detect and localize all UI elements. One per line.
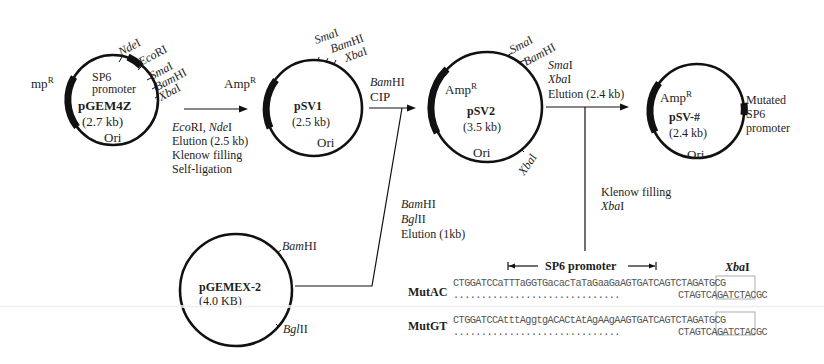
site-bglii: BglII	[283, 322, 308, 336]
ori-label: Ori	[473, 145, 491, 160]
seq-top-mutgt: CTGGATCCAtttAggtgACACtAtAgAAgAAGTGATCAGT…	[453, 315, 726, 326]
marker-label: AmpR	[224, 75, 256, 91]
promoter-label-line2: promoter	[92, 82, 136, 96]
plasmid-size: (2.7 kb)	[82, 114, 123, 129]
oligo-step-line2: XbaI	[600, 199, 624, 213]
plasmid-name: pSV1	[294, 99, 322, 113]
site-bamhi: BamHI	[282, 239, 317, 253]
step3-line1: SmaI	[548, 58, 573, 72]
ori-label: Ori	[687, 147, 705, 162]
feature-line2: SP6	[746, 107, 765, 121]
ampr-gene-bar	[650, 83, 659, 132]
step2-line1: BamHI	[370, 75, 405, 89]
plasmid-pgem4z: mpR SP6 promoter pGEM4Z (2.7 kb) Ori Nde…	[31, 35, 189, 145]
plasmid-name: pSV-#	[669, 110, 700, 124]
step1-line1: EcoRI, NdeI	[171, 120, 232, 134]
marker-label: mpR	[31, 75, 54, 91]
step2-line2: CIP	[370, 89, 390, 104]
step3-line2: XbaI	[547, 72, 571, 86]
scan-artifact-line	[0, 305, 824, 308]
oligo-step-line1: Klenow filling	[601, 185, 671, 199]
step1-arrow: EcoRI, NdeI Elution (2.5 kb) Klenow fill…	[171, 106, 248, 177]
seq-dots-mutac: ..............................	[453, 290, 620, 301]
plasmid-psv-mut: AmpR pSV-# (2.4 kb) Ori Mutated SP6 prom…	[650, 64, 790, 162]
marker-label: AmpR	[660, 89, 692, 105]
seq-top-mutac: CTGGATCCaTTTaGGTGacacTaTaGaaGaAGTGATCAGT…	[453, 278, 726, 289]
insert-step-line2: BglII	[401, 212, 426, 226]
seq-bottom-mutgt: CTAGTCAGATCTACGC	[678, 327, 767, 338]
plasmid-size: (2.4 kb)	[669, 126, 707, 140]
cloning-diagram: mpR SP6 promoter pGEM4Z (2.7 kb) Ori Nde…	[0, 0, 824, 364]
feature-line1: Mutated	[746, 93, 786, 107]
plasmid-name: pGEM4Z	[78, 98, 132, 113]
plasmid-pgemex2: pGEMEX-2 (4.0 KB) BamHI BglII	[180, 234, 317, 346]
plasmid-psv2: AmpR pSV2 (3.5 kb) Ori SmaI BamHI XbaI	[431, 33, 558, 179]
site-xbai: XbaI	[514, 151, 539, 179]
row-name-mutgt: MutGT	[408, 319, 447, 333]
ori-label: Ori	[317, 135, 335, 150]
step3-line3: Elution (2.4 kb)	[548, 87, 624, 101]
ampr-gene-bar	[431, 69, 447, 133]
step1-line4: Self-ligation	[172, 162, 232, 176]
plasmid-size: (2.5 kb)	[292, 115, 330, 129]
insert-step-line1: BamHI	[401, 197, 436, 211]
seq-dots-mutgt: ..............................	[453, 327, 620, 338]
insert-step-line3: Elution (1kb)	[401, 227, 465, 241]
ampr-gene-bar	[68, 77, 77, 127]
marker-label: AmpR	[445, 81, 477, 97]
insert-step-label: BamHI BglII Elution (1kb)	[401, 197, 465, 241]
plasmid-name: pSV2	[467, 104, 495, 118]
ori-label: Ori	[104, 130, 122, 145]
insert-connector-line	[295, 108, 402, 286]
ampr-gene-bar	[266, 80, 276, 128]
xbai-site-label: XbaI	[724, 260, 750, 274]
step1-line2: Elution (2.5 kb)	[172, 134, 248, 148]
plasmid-size: (3.5 kb)	[463, 120, 501, 134]
plasmid-name: pGEMEX-2	[199, 280, 261, 294]
row-name-mutac: MutAC	[408, 285, 447, 299]
seq-bottom-mutac: CTAGTCAGATCTACGC	[678, 290, 767, 301]
sequence-panel: SP6 promoter XbaI MutAC CTGGATCCaTTTaGGT…	[408, 259, 767, 338]
step1-line3: Klenow filling	[172, 148, 242, 162]
sp6-promoter-label: SP6 promoter	[545, 259, 617, 273]
feature-line3: promoter	[746, 121, 790, 135]
